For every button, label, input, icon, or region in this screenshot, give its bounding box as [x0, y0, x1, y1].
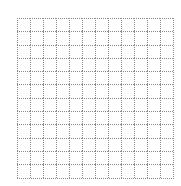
grid-cell: [17, 164, 30, 177]
grid-cell: [17, 58, 30, 71]
grid-cell: [147, 111, 160, 124]
grid-cell: [69, 18, 82, 31]
grid-cell: [147, 124, 160, 137]
grid-cell: [121, 111, 134, 124]
grid-cell: [82, 164, 95, 177]
grid-cell: [147, 18, 160, 31]
grid-cell: [82, 45, 95, 58]
grid-cell: [17, 111, 30, 124]
grid-cell: [108, 45, 121, 58]
grid-cell: [121, 31, 134, 44]
grid-cell: [108, 31, 121, 44]
grid-cell: [69, 31, 82, 44]
grid-cell: [82, 98, 95, 111]
grid-cell: [108, 58, 121, 71]
grid-cell: [82, 111, 95, 124]
grid-cell: [56, 84, 69, 97]
grid-cell: [56, 98, 69, 111]
grid-cell: [43, 18, 56, 31]
grid-cell: [69, 111, 82, 124]
grid-cell: [43, 111, 56, 124]
grid-cell: [95, 31, 108, 44]
grid-cell: [108, 111, 121, 124]
grid-cell: [56, 31, 69, 44]
grid-cell: [121, 45, 134, 58]
grid-cell: [134, 164, 147, 177]
grid-cell: [134, 124, 147, 137]
grid-cell: [147, 84, 160, 97]
grid-cell: [82, 58, 95, 71]
grid-cell: [56, 124, 69, 137]
grid-cell: [30, 45, 43, 58]
grid-cell: [121, 124, 134, 137]
grid-cell: [56, 45, 69, 58]
grid-cell: [17, 124, 30, 137]
grid-cell: [160, 151, 173, 164]
grid-cell: [56, 71, 69, 84]
grid-cell: [30, 84, 43, 97]
grid-cell: [160, 124, 173, 137]
grid-cell: [17, 71, 30, 84]
grid-cell: [30, 111, 43, 124]
grid-cell: [43, 45, 56, 58]
grid-cell: [30, 98, 43, 111]
grid-cell: [134, 71, 147, 84]
grid-cell: [43, 124, 56, 137]
grid-cell: [108, 138, 121, 151]
grid-cell: [82, 151, 95, 164]
grid-cell: [69, 164, 82, 177]
grid-cell: [147, 164, 160, 177]
grid-cell: [69, 124, 82, 137]
grid-cell: [147, 151, 160, 164]
grid-cell: [160, 18, 173, 31]
grid-cell: [134, 58, 147, 71]
dotted-grid: [17, 18, 174, 179]
grid-cell: [43, 71, 56, 84]
grid-cell: [147, 98, 160, 111]
grid-cell: [43, 98, 56, 111]
grid-cell: [108, 84, 121, 97]
grid-cell: [134, 98, 147, 111]
grid-cell: [160, 71, 173, 84]
grid-cell: [43, 151, 56, 164]
grid-cell: [95, 111, 108, 124]
grid-cell: [108, 164, 121, 177]
grid-cell: [17, 45, 30, 58]
grid-cell: [95, 164, 108, 177]
grid-cell: [108, 18, 121, 31]
grid-cell: [134, 111, 147, 124]
grid-cell: [82, 124, 95, 137]
grid-cell: [160, 58, 173, 71]
grid-cell: [30, 138, 43, 151]
grid-cell: [147, 58, 160, 71]
grid-cell: [121, 71, 134, 84]
grid-cell: [30, 124, 43, 137]
grid-cell: [95, 18, 108, 31]
grid-cell: [95, 45, 108, 58]
grid-cell: [160, 164, 173, 177]
grid-cell: [160, 111, 173, 124]
grid-cell: [30, 164, 43, 177]
grid-cell: [95, 98, 108, 111]
grid-cell: [134, 45, 147, 58]
grid-cell: [108, 151, 121, 164]
grid-cell: [95, 151, 108, 164]
grid-cell: [134, 151, 147, 164]
grid-cell: [121, 138, 134, 151]
grid-cell: [108, 71, 121, 84]
grid-cell: [43, 138, 56, 151]
grid-cell: [69, 151, 82, 164]
grid-cell: [69, 58, 82, 71]
grid-cell: [147, 45, 160, 58]
grid-cell: [43, 31, 56, 44]
grid-cell: [121, 151, 134, 164]
grid-cell: [147, 31, 160, 44]
grid-cell: [30, 58, 43, 71]
grid-cell: [160, 138, 173, 151]
grid-cell: [95, 71, 108, 84]
grid-cell: [30, 71, 43, 84]
grid-cell: [30, 31, 43, 44]
grid-cell: [30, 18, 43, 31]
grid-cell: [121, 98, 134, 111]
grid-cell: [69, 45, 82, 58]
